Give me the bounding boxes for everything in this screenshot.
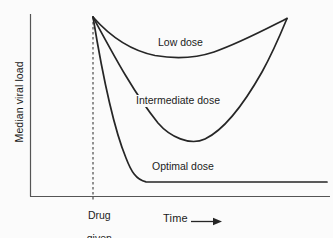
curve-label-intermediate-dose: Intermediate dose [134, 95, 222, 107]
curve-label-optimal-dose: Optimal dose [150, 161, 216, 173]
figure-root: Median viral load Time Drug given Low do… [0, 0, 333, 238]
drug-given-line-1: Drug [88, 209, 111, 221]
x-axis-label: Time [163, 212, 188, 224]
y-axis-label: Median viral load [14, 50, 26, 154]
curve-label-low-dose: Low dose [156, 37, 205, 49]
drug-given-label: Drug given [69, 198, 118, 238]
drug-given-line-2: given [87, 232, 112, 238]
